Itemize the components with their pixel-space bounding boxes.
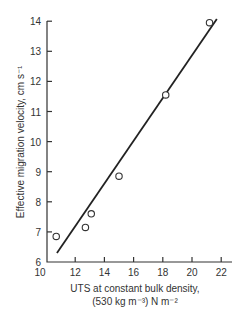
y-tick-label: 8 bbox=[35, 197, 41, 208]
x-axis-title-line1: UTS at constant bulk density, bbox=[70, 283, 199, 294]
y-axis-ticks: 67891011121314 bbox=[30, 16, 52, 268]
x-tick-label: 16 bbox=[128, 267, 140, 278]
y-tick-label: 9 bbox=[35, 167, 41, 178]
y-tick-label: 14 bbox=[30, 16, 42, 27]
x-axis-title-line2: (530 kg m⁻³) N m⁻² bbox=[92, 296, 178, 307]
y-tick-label: 12 bbox=[30, 76, 42, 87]
data-point bbox=[88, 211, 94, 217]
data-point bbox=[163, 92, 169, 98]
x-tick-label: 10 bbox=[34, 267, 46, 278]
y-tick-label: 10 bbox=[30, 137, 42, 148]
x-tick-label: 18 bbox=[157, 267, 169, 278]
data-point bbox=[53, 233, 59, 239]
x-tick-label: 12 bbox=[70, 267, 82, 278]
data-point bbox=[82, 224, 88, 230]
x-tick-label: 20 bbox=[186, 267, 198, 278]
y-tick-label: 7 bbox=[35, 227, 41, 238]
x-tick-label: 22 bbox=[216, 267, 228, 278]
y-axis-title: Effective migration velocity, cm s⁻¹ bbox=[15, 65, 26, 218]
y-tick-label: 11 bbox=[31, 107, 42, 118]
fit-line bbox=[57, 19, 217, 253]
data-points bbox=[53, 20, 213, 240]
data-point bbox=[116, 173, 122, 179]
scatter-chart: 67891011121314 10121416182022 Effective … bbox=[0, 0, 250, 320]
y-tick-label: 13 bbox=[30, 46, 42, 57]
x-tick-label: 14 bbox=[99, 267, 111, 278]
data-point bbox=[206, 20, 212, 26]
x-axis-ticks: 10121416182022 bbox=[34, 257, 227, 278]
